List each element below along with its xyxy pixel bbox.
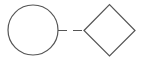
diagram-canvas [0, 0, 143, 59]
diamond-node [84, 5, 135, 57]
circle-node [8, 5, 58, 55]
